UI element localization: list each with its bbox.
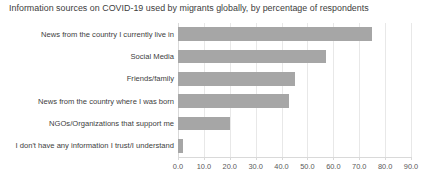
- bar-row: Friends/family: [178, 68, 411, 90]
- category-label: Social Media: [2, 52, 174, 61]
- category-label: NGOs/Organizations that support me: [2, 119, 174, 128]
- chart-title: Information sources on COVID-19 used by …: [9, 3, 427, 14]
- x-axis-line: [178, 157, 412, 158]
- x-tick-mark: [282, 157, 283, 160]
- x-tick-label: 90.0: [396, 162, 426, 171]
- bar-row: News from the country where I was born: [178, 90, 411, 112]
- bar: [178, 94, 289, 108]
- bar: [178, 139, 183, 153]
- x-tick-mark: [411, 157, 412, 160]
- x-tick-mark: [385, 157, 386, 160]
- gridline-90: [411, 23, 412, 157]
- x-tick-mark: [178, 157, 179, 160]
- bar-row: I don't have any information I trust/I u…: [178, 135, 411, 157]
- category-label: News from the country where I was born: [2, 97, 174, 106]
- bar-row: News from the country I currently live i…: [178, 23, 411, 45]
- category-label: News from the country I currently live i…: [2, 30, 174, 39]
- category-label: Friends/family: [2, 74, 174, 83]
- x-tick-mark: [256, 157, 257, 160]
- x-tick-mark: [204, 157, 205, 160]
- bar: [178, 72, 295, 86]
- plot-area: News from the country I currently live i…: [178, 23, 411, 157]
- bar: [178, 117, 230, 131]
- x-tick-mark: [307, 157, 308, 160]
- bar-row: NGOs/Organizations that support me: [178, 112, 411, 134]
- bar: [178, 27, 372, 41]
- bar-chart: Information sources on COVID-19 used by …: [0, 0, 432, 182]
- bar-row: Social Media: [178, 45, 411, 67]
- x-tick-mark: [333, 157, 334, 160]
- bar: [178, 50, 326, 64]
- x-tick-mark: [230, 157, 231, 160]
- category-label: I don't have any information I trust/I u…: [2, 141, 174, 150]
- x-tick-mark: [359, 157, 360, 160]
